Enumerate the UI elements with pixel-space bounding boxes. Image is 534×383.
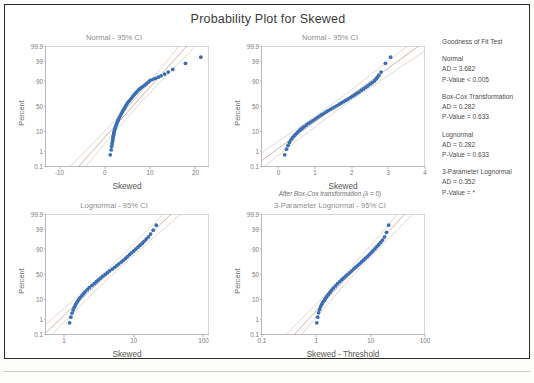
y-axis-tick-label: 1	[255, 148, 259, 155]
y-axis-label: Percent	[17, 100, 26, 125]
y-axis-tick-mark	[260, 151, 263, 152]
plot-area: 0.111050909999.9-1001020	[45, 46, 209, 167]
data-point	[159, 74, 163, 78]
y-axis-tick-label: 10	[36, 295, 43, 302]
legend-heading: Goodness of Fit Test	[442, 37, 530, 47]
y-axis-tick-label: 99.9	[247, 211, 259, 218]
y-axis-tick-label: 50	[252, 103, 259, 110]
y-axis-tick-label: 99.9	[31, 43, 43, 50]
data-series	[46, 214, 209, 334]
x-axis-tick-mark	[203, 334, 204, 337]
data-point	[199, 55, 203, 59]
y-axis-tick-mark	[260, 166, 263, 167]
y-axis-tick-mark	[44, 46, 47, 47]
y-axis-tick-label: 99.9	[247, 43, 259, 50]
x-axis-label: Skewed	[45, 350, 209, 359]
y-axis-tick-mark	[44, 249, 47, 250]
y-axis-tick-mark	[44, 81, 47, 82]
probability-plot-screenshot: Probability Plot for Skewed Normal - 95%…	[0, 0, 534, 383]
x-axis-tick-label: -10	[55, 169, 64, 176]
page-divider	[4, 371, 530, 372]
x-axis-tick-label: 10	[147, 169, 154, 176]
y-axis-tick-mark	[44, 60, 47, 61]
data-point	[381, 238, 385, 242]
legend-p-value: P-Value < 0.005	[442, 75, 530, 85]
y-axis-tick-label: 0.1	[250, 163, 259, 170]
y-axis-tick-label: 10	[252, 127, 259, 134]
y-axis-tick-label: 1	[39, 316, 43, 323]
y-axis-tick-mark	[260, 81, 263, 82]
data-series	[46, 46, 209, 166]
y-axis-tick-mark	[44, 130, 47, 131]
data-point	[383, 235, 387, 239]
x-axis-tick-label: 10	[367, 337, 374, 344]
data-point	[69, 315, 73, 319]
y-axis-tick-mark	[44, 151, 47, 152]
data-point	[166, 70, 170, 74]
y-axis-tick-mark	[44, 298, 47, 299]
x-axis-tick-label: 1	[313, 169, 317, 176]
x-axis-tick-mark	[133, 334, 134, 337]
y-axis-tick-mark	[44, 214, 47, 215]
x-axis-label: Skewed	[45, 182, 209, 191]
plot-subtitle: Normal - 95% CI	[227, 33, 433, 42]
data-point	[389, 55, 393, 59]
ci-upper-line	[284, 214, 401, 334]
data-point	[151, 228, 155, 232]
y-axis-label: Percent	[233, 100, 242, 125]
x-axis-tick-label: 3	[387, 169, 391, 176]
y-axis-tick-mark	[44, 274, 47, 275]
x-axis-tick-mark	[262, 334, 263, 337]
data-point	[379, 70, 383, 74]
ci-lower-line	[84, 46, 198, 166]
data-point	[108, 153, 112, 157]
data-series	[262, 46, 425, 166]
legend-group-boxcox: Box-Cox Transformation AD = 0.282 P-Valu…	[442, 92, 530, 123]
data-point	[283, 153, 287, 157]
y-axis-tick-label: 10	[36, 127, 43, 134]
x-axis-tick-mark	[351, 166, 352, 169]
x-axis-tick-mark	[64, 334, 65, 337]
y-axis-tick-label: 1	[39, 148, 43, 155]
x-axis-tick-mark	[316, 334, 317, 337]
legend-p-value: P-Value = 0.633	[442, 112, 530, 122]
y-axis-tick-mark	[44, 334, 47, 335]
y-axis-tick-mark	[44, 106, 47, 107]
ci-upper-line	[262, 46, 411, 152]
x-axis-tick-label: 10	[130, 337, 137, 344]
plot-normal-boxcox: Normal - 95% CI Percent 0.111050909999.9…	[227, 33, 433, 193]
legend-group-name: Box-Cox Transformation	[442, 92, 530, 102]
y-axis-tick-label: 90	[36, 78, 43, 85]
y-axis-tick-label: 99	[252, 57, 259, 64]
plot-area: 0.111050909999.90.1110100	[261, 214, 425, 335]
x-axis-tick-label: 4	[423, 169, 427, 176]
data-point	[184, 61, 188, 65]
legend-group-name: Lognormal	[442, 130, 530, 140]
plot-area: 0.111050909999.9110100	[45, 214, 209, 335]
y-axis-tick-mark	[260, 46, 263, 47]
legend-ad-value: AD = 0.282	[442, 102, 530, 112]
y-axis-tick-mark	[260, 60, 263, 61]
x-axis-tick-label: 20	[192, 169, 199, 176]
data-point	[315, 321, 319, 325]
data-point	[317, 311, 321, 315]
x-axis-tick-mark	[104, 166, 105, 169]
ci-upper-line	[46, 214, 166, 324]
y-axis-tick-label: 99	[36, 57, 43, 64]
legend-ad-value: AD = 0.352	[442, 177, 530, 187]
ci-lower-line	[49, 214, 185, 334]
data-point	[154, 223, 158, 227]
legend-p-value: P-Value = *	[442, 188, 530, 198]
x-axis-tick-label: 0.1	[258, 337, 267, 344]
plot-panel: Probability Plot for Skewed Normal - 95%…	[4, 4, 530, 359]
data-series	[262, 214, 425, 334]
y-axis-tick-mark	[260, 249, 263, 250]
x-axis-tick-label: 100	[198, 337, 209, 344]
plot-lognormal: Lognormal - 95% CI Percent 0.11105090999…	[11, 201, 217, 361]
x-axis-tick-mark	[278, 166, 279, 169]
x-axis-tick-mark	[150, 166, 151, 169]
y-axis-label: Percent	[233, 268, 242, 293]
legend-p-value: P-Value = 0.633	[442, 150, 530, 160]
y-axis-tick-mark	[260, 298, 263, 299]
y-axis-tick-label: 99	[36, 225, 43, 232]
